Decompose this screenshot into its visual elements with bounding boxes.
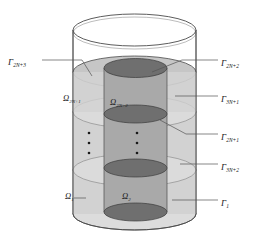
label-subscript: 2N+2 bbox=[226, 63, 239, 69]
label-subscript: 2N+1 bbox=[69, 99, 81, 104]
label-gamma-1: Γ1 bbox=[221, 193, 229, 210]
label-subscript: 1 bbox=[71, 197, 74, 202]
label-subscript: 3N+1 bbox=[226, 99, 239, 105]
label-subscript: 2N+3 bbox=[13, 62, 26, 68]
inner-cylinder-body bbox=[103, 60, 168, 216]
label-omega-2n-plus-2: Ω2N+2 bbox=[110, 92, 128, 108]
inner-disk-third bbox=[104, 159, 167, 177]
label-gamma-3n-plus-2: Γ3N+2 bbox=[221, 157, 239, 174]
label-omega-2n-plus-1: Ω2N+1 bbox=[63, 88, 81, 104]
label-subscript: 2 bbox=[128, 197, 131, 202]
label-gamma-2n-plus-2: Γ2N+2 bbox=[221, 53, 239, 70]
label-subscript: 2N+2 bbox=[116, 103, 128, 108]
inner-disk-top bbox=[104, 59, 167, 78]
label-gamma-2n-plus-3: Γ2N+3 bbox=[8, 52, 26, 69]
label-omega-2: Ω2 bbox=[122, 186, 131, 202]
label-subscript: 3N+2 bbox=[226, 167, 239, 173]
label-omega-1: Ω1 bbox=[65, 186, 74, 202]
inner-disk-bottom bbox=[104, 203, 167, 221]
label-gamma-2n-plus-1: Γ2N+1 bbox=[221, 127, 239, 144]
label-gamma-3n-plus-1: Γ3N+1 bbox=[221, 89, 239, 106]
label-subscript: 1 bbox=[226, 203, 229, 209]
label-subscript: 2N+1 bbox=[226, 137, 239, 143]
